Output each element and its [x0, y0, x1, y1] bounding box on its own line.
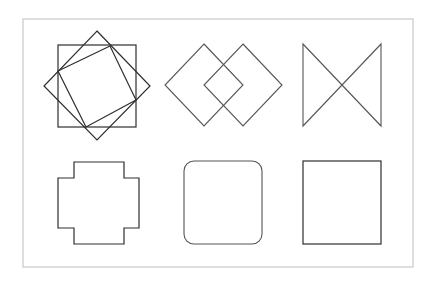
bowtie-outline	[303, 44, 381, 126]
tilted-square-outline	[58, 46, 136, 127]
diamond-outline	[44, 31, 150, 140]
figure-square	[303, 161, 381, 244]
figure-overlapping-squares	[44, 31, 150, 140]
figure-cross	[58, 162, 139, 244]
outer-frame	[23, 19, 413, 267]
figure-canvas	[0, 0, 432, 282]
cross-outline	[58, 162, 139, 244]
square-outline	[58, 45, 136, 127]
rounded-square-outline	[184, 161, 262, 244]
plain-square-outline	[303, 161, 381, 244]
figure-rounded-square	[184, 161, 262, 244]
figure-interlocking-diamonds	[165, 44, 282, 126]
figure-bowtie	[303, 44, 381, 126]
